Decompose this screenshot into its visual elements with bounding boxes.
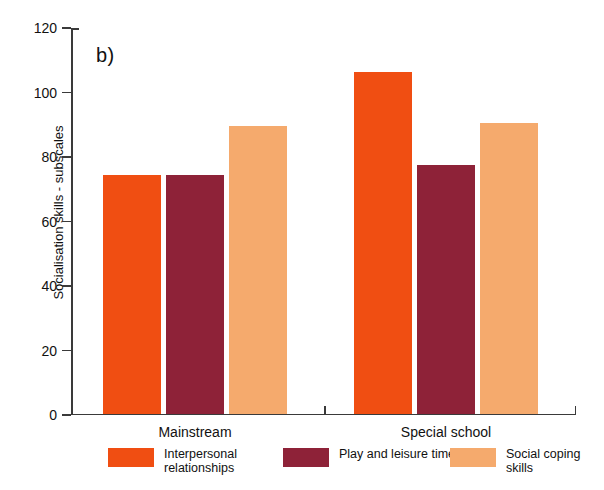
- x-axis-group-separator-tick: [324, 406, 326, 415]
- y-tick-label: 60: [41, 214, 57, 230]
- legend-swatch: [450, 448, 496, 467]
- y-tick-mark: [62, 350, 71, 352]
- y-tick-mark: [62, 27, 71, 29]
- bar: [480, 123, 538, 413]
- bar: [229, 126, 287, 413]
- legend-item: Interpersonal relationships: [108, 447, 284, 475]
- bar: [417, 165, 475, 413]
- y-tick-label: 40: [41, 278, 57, 294]
- legend-label: Social coping skills: [506, 447, 604, 475]
- plot-area: 020406080100120 MainstreamSpecial school: [71, 28, 576, 415]
- bar: [103, 175, 161, 414]
- y-tick-mark: [62, 156, 71, 158]
- y-tick-mark: [62, 92, 71, 94]
- y-axis-label: Socialisation skills - subscales: [51, 63, 66, 363]
- y-tick-mark: [62, 285, 71, 287]
- legend-swatch: [108, 448, 154, 467]
- y-tick-label: 0: [49, 407, 57, 423]
- legend-label: Play and leisure time: [339, 447, 455, 461]
- bar: [354, 72, 412, 414]
- y-axis-line: [71, 28, 73, 415]
- y-tick-label: 20: [41, 343, 57, 359]
- x-axis-right-cap: [575, 406, 577, 415]
- x-group-label: Mainstream: [158, 424, 231, 440]
- legend-item: Play and leisure time: [283, 447, 455, 467]
- y-tick-label: 100: [34, 85, 57, 101]
- legend-item: Social coping skills: [450, 447, 604, 475]
- y-axis-top-cap: [71, 28, 79, 30]
- x-group-label: Special school: [401, 424, 491, 440]
- y-tick-label: 120: [34, 20, 57, 36]
- bar-chart-figure: b) Socialisation skills - subscales 0204…: [0, 0, 604, 490]
- y-tick-mark: [62, 414, 71, 416]
- y-tick-mark: [62, 221, 71, 223]
- legend-label: Interpersonal relationships: [164, 447, 284, 475]
- chart-legend: Interpersonal relationshipsPlay and leis…: [0, 443, 604, 488]
- y-tick-label: 80: [41, 149, 57, 165]
- legend-swatch: [283, 448, 329, 467]
- bar: [166, 175, 224, 414]
